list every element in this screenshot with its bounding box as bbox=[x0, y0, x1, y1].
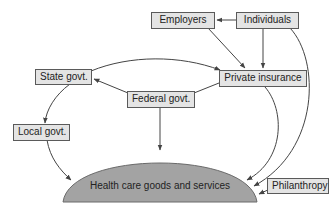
node-local-govt: Local govt. bbox=[13, 124, 70, 141]
node-private-insurance: Private insurance bbox=[219, 70, 307, 87]
edge-individuals-health bbox=[254, 28, 309, 186]
edge-private-health bbox=[247, 87, 278, 180]
edge-federal-private bbox=[194, 83, 219, 93]
edge-state-private bbox=[91, 59, 220, 71]
node-employers: Employers bbox=[151, 12, 215, 29]
edge-employers-private bbox=[208, 28, 245, 68]
node-individuals: Individuals bbox=[236, 12, 299, 29]
edge-local-health bbox=[47, 140, 71, 180]
edge-federal-state bbox=[94, 79, 128, 93]
edge-state-local bbox=[45, 84, 70, 123]
node-philanthropy: Philanthropy bbox=[267, 178, 329, 194]
node-health-care: Health care goods and services bbox=[85, 180, 235, 191]
node-state-govt: State govt. bbox=[35, 69, 92, 85]
node-federal-govt: Federal govt. bbox=[127, 91, 195, 108]
